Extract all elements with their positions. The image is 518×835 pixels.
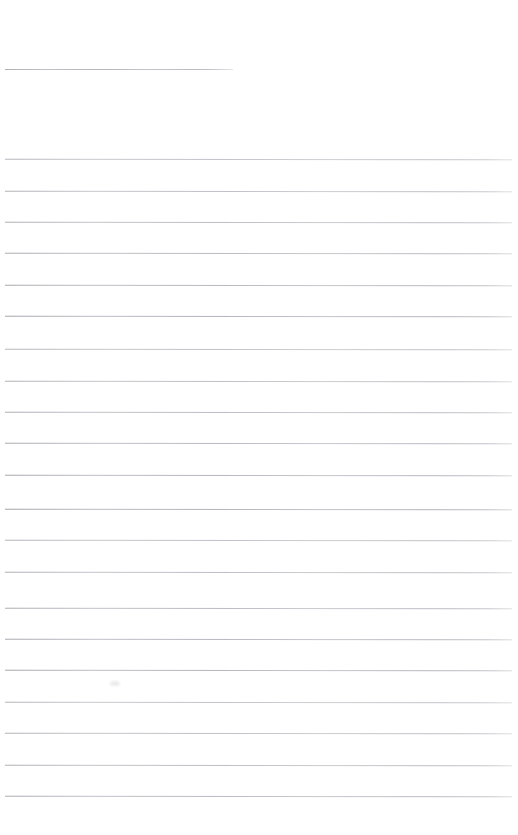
scan-speck [110,681,120,686]
ruled-line [5,222,512,223]
ruled-line [5,285,512,287]
ruled-line [5,509,512,510]
ruled-line [5,608,512,610]
ruled-line [5,253,512,254]
ruled-line [5,159,512,160]
document-page [0,0,518,835]
ruled-line [5,765,512,767]
ruled-line [5,702,512,703]
ruled-line [5,349,512,350]
ruled-line [5,412,512,413]
ruled-line [5,443,512,445]
ruled-line [5,540,512,541]
ruled-line [5,191,512,192]
header-rule [5,69,233,70]
ruled-line [5,639,512,640]
ruled-line [5,670,512,671]
ruled-line [5,381,512,382]
ruled-line [5,316,512,317]
ruled-line [5,796,512,797]
ruled-line [5,572,512,573]
ruled-line [5,733,512,734]
ruled-line [5,475,512,476]
